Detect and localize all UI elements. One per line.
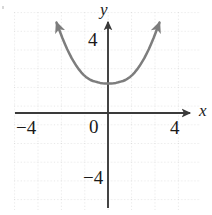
x-axis-tick-label-4: 4 — [170, 118, 180, 137]
x-axis-tick-label-neg4: −4 — [16, 118, 36, 137]
x-axis-name-label: x — [199, 102, 207, 119]
grid-lines — [14, 12, 200, 210]
y-axis-tick-label-4: 4 — [88, 30, 98, 49]
coordinate-plane — [0, 0, 212, 215]
origin-label-zero: 0 — [89, 117, 99, 136]
y-axis-tick-label-neg4: −4 — [83, 168, 103, 187]
graph-figure: −4 0 4 4 −4 y x — [0, 0, 212, 215]
y-axis-name-label: y — [100, 1, 108, 18]
